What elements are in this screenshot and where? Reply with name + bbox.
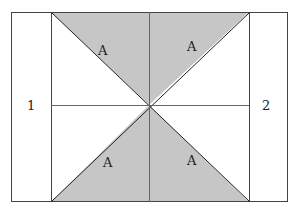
label-triangle-bottom-right: A: [186, 153, 197, 168]
label-triangle-bottom-left: A: [102, 155, 113, 170]
label-region-2: 2: [262, 98, 270, 113]
label-region-1: 1: [27, 98, 35, 113]
label-triangle-top-left: A: [97, 43, 108, 58]
diagram-canvas: 1 2 A A A A: [0, 0, 297, 211]
label-triangle-top-right: A: [186, 39, 197, 54]
